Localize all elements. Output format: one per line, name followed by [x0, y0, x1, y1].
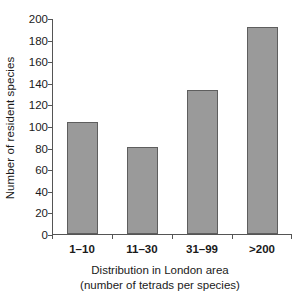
y-axis-tick-labels: 020406080100120140160180200: [18, 0, 48, 303]
bar: [247, 27, 278, 234]
bar: [187, 90, 218, 234]
y-axis-tick-label: 100: [29, 121, 48, 133]
y-axis-tick: [48, 19, 52, 20]
y-axis-tick-label: 160: [29, 56, 48, 68]
x-axis-title-line1: Distribution in London area: [30, 263, 290, 278]
y-axis-tick: [48, 213, 52, 214]
bar: [67, 122, 98, 234]
x-axis-title: Distribution in London area (number of t…: [30, 263, 290, 293]
y-axis-tick-label: 120: [29, 99, 48, 111]
x-axis-tick-labels: 1–1011–3031–99>200: [52, 243, 292, 259]
x-axis-tick: [291, 235, 292, 239]
x-axis-tick-label: >200: [249, 243, 275, 255]
x-axis-tick-label: 31–99: [186, 243, 218, 255]
plot-area: [52, 19, 292, 235]
y-axis-tick: [48, 170, 52, 171]
y-axis-tick: [48, 192, 52, 193]
y-axis-tick: [48, 41, 52, 42]
x-axis-tick: [112, 235, 113, 239]
y-axis-tick: [48, 127, 52, 128]
y-axis-tick-label: 140: [29, 78, 48, 90]
y-axis-title: Number of resident species: [4, 57, 16, 200]
y-axis-title-container: Number of resident species: [0, 18, 20, 238]
x-axis-tick: [52, 235, 53, 239]
x-axis-tick: [172, 235, 173, 239]
y-axis-tick-label: 180: [29, 35, 48, 47]
y-axis-tick: [48, 149, 52, 150]
y-axis-tick-label: 200: [29, 13, 48, 25]
y-axis-tick: [48, 105, 52, 106]
y-axis-tick: [48, 84, 52, 85]
y-axis-line: [52, 19, 53, 235]
y-axis-tick-label: 60: [35, 164, 48, 176]
y-axis-tick-label: 80: [35, 143, 48, 155]
x-axis-tick-label: 11–30: [126, 243, 157, 255]
y-axis-tick: [48, 62, 52, 63]
y-axis-tick-label: 20: [35, 207, 48, 219]
y-axis-tick-label: 40: [35, 186, 48, 198]
x-axis-tick-label: 1–10: [69, 243, 95, 255]
x-axis-title-line2: (number of tetrads per species): [30, 278, 290, 293]
x-axis-tick: [232, 235, 233, 239]
bar: [127, 147, 158, 234]
bar-chart-figure: Number of resident species 0204060801001…: [0, 0, 305, 303]
